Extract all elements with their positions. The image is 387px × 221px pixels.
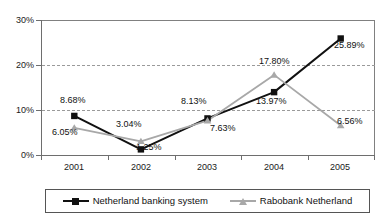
data-label-s2-2004: 17.80% xyxy=(259,57,290,66)
data-label-s1-2005: 25.89% xyxy=(334,41,365,50)
data-label-s1-2001: 8.68% xyxy=(60,96,86,105)
y-tick-30 xyxy=(36,20,42,21)
data-label-s2-2001: 6.05% xyxy=(52,128,78,137)
y-axis-label-0: 0% xyxy=(21,151,34,160)
legend-label-netherland-banking-system: Netherland banking system xyxy=(93,196,208,206)
plot-area xyxy=(41,20,375,155)
x-tick-2 xyxy=(175,155,176,160)
data-label-s1-2004: 13.97% xyxy=(256,97,287,106)
data-label-s1-2003: 8.13% xyxy=(181,97,207,106)
y-axis-label-30: 30% xyxy=(16,16,34,25)
x-tick-1 xyxy=(108,155,109,160)
x-axis-label-2002: 2002 xyxy=(118,163,164,172)
x-tick-3 xyxy=(241,155,242,160)
legend-entry-netherland-banking-system[interactable]: Netherland banking system xyxy=(63,196,208,206)
data-label-s2-2005: 6.56% xyxy=(337,117,363,126)
legend-entry-rabobank-netherland[interactable]: Rabobank Netherland xyxy=(230,196,352,206)
y-axis-label-10: 10% xyxy=(16,106,34,115)
x-axis-label-2005: 2005 xyxy=(317,163,363,172)
legend-marker-square-icon xyxy=(63,196,89,206)
gridline-20 xyxy=(42,65,375,66)
x-axis-label-2004: 2004 xyxy=(251,163,297,172)
data-label-s2-2003: 7.63% xyxy=(210,124,236,133)
y-tick-10 xyxy=(36,110,42,111)
y-axis-line xyxy=(41,20,42,156)
x-tick-end xyxy=(374,155,375,160)
data-label-s2-2002: 3.04% xyxy=(116,120,142,129)
x-tick-4 xyxy=(308,155,309,160)
x-tick-start xyxy=(41,155,42,160)
x-axis-line xyxy=(41,155,375,156)
x-axis-label-2001: 2001 xyxy=(51,163,97,172)
legend-marker-triangle-icon xyxy=(230,196,256,206)
y-tick-20 xyxy=(36,65,42,66)
gridline-10 xyxy=(42,110,375,111)
chart-figure: 30% 20% 10% 0% 2001 2002 2003 2004 2005 … xyxy=(0,0,387,221)
y-axis-label-20: 20% xyxy=(16,61,34,70)
chart-legend: Netherland banking system Rabobank Nethe… xyxy=(45,189,370,213)
x-axis-label-2003: 2003 xyxy=(184,163,230,172)
data-label-s1-2002: 1.25% xyxy=(136,143,162,152)
legend-label-rabobank-netherland: Rabobank Netherland xyxy=(260,196,352,206)
